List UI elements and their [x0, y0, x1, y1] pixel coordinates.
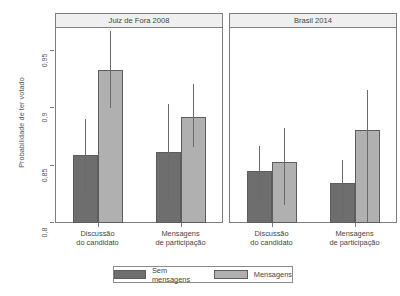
panel-title: Brasil 2014	[230, 14, 396, 28]
legend-label: Sem mensagens	[152, 266, 204, 284]
x-axis-tick	[355, 223, 356, 227]
error-bar	[342, 160, 343, 223]
y-axis-tick-label: 0,9	[41, 105, 48, 131]
x-axis-tick	[98, 223, 99, 227]
x-axis-tick	[181, 223, 182, 227]
y-axis-tick-label: 0,8	[41, 220, 48, 246]
legend-swatch	[214, 270, 248, 279]
y-axis-title: Probabilidade de ter votado	[17, 28, 26, 218]
chart-panel: Brasil 2014	[229, 13, 397, 223]
y-axis-tick	[50, 107, 54, 108]
chart-panel: Juiz de Fora 2008	[55, 13, 223, 223]
panel-plot-area	[56, 28, 222, 222]
x-axis-label: Mensagens de participação	[136, 229, 226, 247]
chart-legend: Sem mensagensMensagens	[113, 266, 293, 283]
panel-title: Juiz de Fora 2008	[56, 14, 222, 28]
error-bar	[193, 84, 194, 147]
x-axis-label: Discussão do candidato	[227, 229, 317, 247]
y-axis-tick	[50, 50, 54, 51]
legend-item: Mensagens	[214, 270, 292, 279]
error-bar	[259, 146, 260, 195]
y-axis-tick	[50, 222, 54, 223]
x-axis-label: Discussão do candidato	[53, 229, 143, 247]
error-bar	[85, 119, 86, 195]
legend-item: Sem mensagens	[114, 266, 204, 284]
error-bar	[168, 104, 169, 202]
legend-label: Mensagens	[254, 270, 292, 279]
legend-swatch	[114, 270, 146, 279]
chart-container: Probabilidade de ter votado 0,80,850,90,…	[0, 0, 400, 296]
error-bar	[367, 90, 368, 223]
y-axis-tick	[50, 165, 54, 166]
y-axis-tick-label: 0,95	[41, 47, 48, 73]
y-axis-tick-label: 0,85	[41, 162, 48, 188]
x-axis-label: Mensagens de participação	[310, 229, 400, 247]
error-bar	[110, 31, 111, 108]
panel-plot-area	[230, 28, 396, 222]
x-axis-tick	[272, 223, 273, 227]
error-bar	[284, 128, 285, 205]
